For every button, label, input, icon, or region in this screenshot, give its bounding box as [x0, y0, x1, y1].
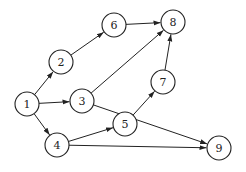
node-label: 5 [122, 118, 129, 131]
node-label: 6 [111, 19, 118, 32]
node-label: 9 [216, 142, 223, 155]
node-label: 3 [79, 95, 86, 108]
node-label: 2 [58, 56, 65, 69]
edge-1-to-2 [35, 72, 54, 95]
edge-5-to-7 [133, 91, 155, 115]
edge-3-to-9 [93, 105, 207, 144]
node-7: 7 [151, 70, 175, 94]
node-5: 5 [113, 112, 137, 136]
edge-1-to-4 [34, 114, 50, 135]
edge-1-to-3 [39, 102, 70, 104]
node-4: 4 [45, 133, 69, 157]
edge-4-to-5 [68, 128, 113, 142]
node-1: 1 [15, 92, 39, 116]
edge-4-to-9 [69, 145, 207, 148]
edge-7-to-8 [165, 34, 171, 70]
edge-2-to-6 [71, 32, 104, 55]
edge-6-to-8 [126, 23, 161, 25]
node-8: 8 [161, 10, 185, 34]
node-6: 6 [102, 13, 126, 37]
node-label: 7 [160, 76, 167, 89]
node-label: 4 [54, 139, 61, 152]
node-label: 8 [170, 16, 177, 29]
node-2: 2 [49, 50, 73, 74]
node-9: 9 [207, 136, 231, 160]
node-label: 1 [24, 98, 31, 111]
node-3: 3 [70, 89, 94, 113]
nodes-layer: 123456789 [15, 10, 231, 160]
directed-graph: 123456789 [0, 0, 246, 172]
